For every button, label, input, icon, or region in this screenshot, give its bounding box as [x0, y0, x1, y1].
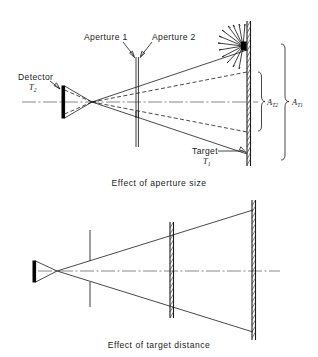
detector-label: Detector: [18, 72, 53, 82]
brace-area-t1: [281, 44, 289, 160]
area-t1-label: AT1: [291, 98, 303, 108]
detector-cone-2: [36, 261, 57, 282]
panel-target-distance: Effect of target distance: [33, 200, 280, 350]
target-radiation-burst: [218, 24, 247, 69]
panel-aperture-size: Detector T2 Aperture 1 Aperture 2 Target…: [18, 21, 303, 188]
aperture-1-leader: [123, 42, 134, 56]
panel-1-caption: Effect of aperture size: [112, 178, 207, 188]
detector-leader-arrow: [54, 83, 60, 89]
detector-symbol: T2: [29, 83, 37, 93]
aperture-1-leader-arrow: [130, 51, 135, 57]
target-label: Target: [192, 146, 218, 156]
aperture-2-leader: [141, 42, 152, 56]
brace-area-t2: [258, 72, 265, 131]
aperture-2-label: Aperture 2: [152, 32, 196, 42]
aperture-1-label: Aperture 1: [84, 32, 128, 42]
aperture-1-bar: [136, 57, 138, 118]
aperture-2-bar: [136, 111, 138, 147]
figure-container: Detector T2 Aperture 1 Aperture 2 Target…: [0, 0, 318, 357]
target-wall: [247, 21, 251, 166]
diagram-canvas: Detector T2 Aperture 1 Aperture 2 Target…: [0, 0, 318, 357]
target-symbol: T1: [203, 157, 211, 167]
area-t2-label: AT2: [266, 98, 278, 108]
detector-element-2: [33, 261, 36, 282]
detector-element: [62, 86, 65, 118]
near-wall: [170, 222, 174, 318]
far-wall: [252, 200, 256, 340]
panel-2-caption: Effect of target distance: [108, 340, 211, 350]
